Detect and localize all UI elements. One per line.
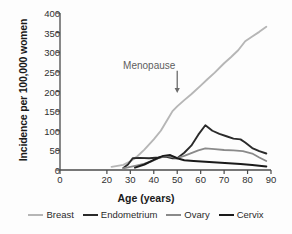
legend-label: Breast bbox=[46, 209, 73, 220]
menopause-annotation-label: Menopause bbox=[123, 60, 175, 71]
x-tick-label: 90 bbox=[256, 174, 286, 185]
legend-label: Endometrium bbox=[101, 209, 158, 220]
legend-swatch-icon bbox=[28, 214, 43, 216]
legend-swatch-icon bbox=[219, 214, 234, 216]
legend-swatch-icon bbox=[83, 214, 98, 216]
legend-item-ovary[interactable]: Ovary bbox=[166, 209, 209, 220]
chart-legend: BreastEndometriumOvaryCervix bbox=[0, 209, 292, 220]
series-line-breast bbox=[112, 27, 267, 167]
legend-item-endometrium[interactable]: Endometrium bbox=[83, 209, 158, 220]
legend-swatch-icon bbox=[166, 214, 181, 216]
chart-figure: Incidence per 100,000 women 050100150200… bbox=[0, 0, 292, 234]
legend-item-cervix[interactable]: Cervix bbox=[219, 209, 264, 220]
legend-label: Ovary bbox=[184, 209, 209, 220]
legend-label: Cervix bbox=[237, 209, 264, 220]
axis-spines bbox=[60, 13, 271, 170]
x-axis-label: Age (years) bbox=[0, 192, 292, 204]
annotation-arrow bbox=[175, 71, 180, 93]
legend-item-breast[interactable]: Breast bbox=[28, 209, 73, 220]
x-axis-tick-labels: 02030405060708090 bbox=[0, 174, 292, 190]
x-tick-label: 0 bbox=[45, 174, 75, 185]
